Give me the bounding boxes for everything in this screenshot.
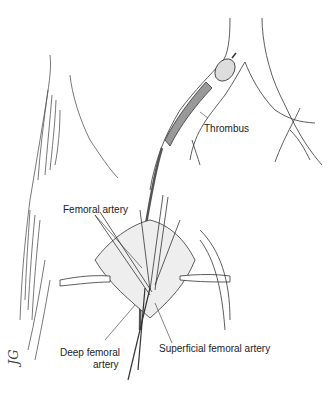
label-deep-femoral-artery-2: artery: [93, 359, 119, 370]
label-thrombus: Thrombus: [204, 123, 249, 134]
label-femoral-artery: Femoral artery: [63, 204, 128, 215]
label-superficial-femoral-artery: Superficial femoral artery: [159, 343, 270, 354]
illustration: [0, 0, 332, 393]
label-deep-femoral-artery-1: Deep femoral: [60, 347, 120, 358]
vessel-outlines: [150, 18, 322, 190]
artist-signature: JG: [6, 349, 21, 365]
